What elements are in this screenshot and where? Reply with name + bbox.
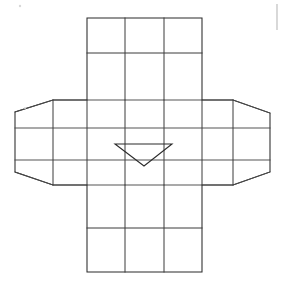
- speck-top-left-icon: [19, 5, 21, 7]
- top-panel-grid: [87, 18, 202, 100]
- left-wing-grid: [53, 100, 87, 185]
- center-arrow-icon: [115, 144, 172, 166]
- center-arrow-group: [115, 144, 172, 166]
- speck-mid-left-icon: [24, 107, 26, 109]
- center-panel-grid: [125, 100, 164, 185]
- right-wing-grid: [202, 100, 233, 185]
- scan-artifacts-group: [19, 4, 277, 109]
- cross-net-diagram: Unfolded cross-shaped net composed of a …: [0, 0, 286, 289]
- bottom-panel-grid: [87, 185, 202, 272]
- figure-canvas: Unfolded cross-shaped net composed of a …: [0, 0, 286, 289]
